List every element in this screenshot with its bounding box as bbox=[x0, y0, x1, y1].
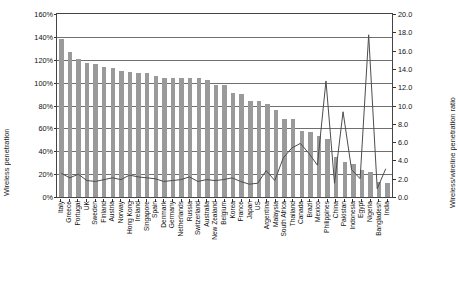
y-tick-label-right: 16.0 bbox=[398, 46, 412, 55]
x-tick-label: Argentina bbox=[263, 201, 270, 229]
x-tick-label: Malaysia bbox=[272, 201, 279, 227]
x-tick-label: Germany bbox=[168, 201, 175, 228]
x-tick-label-wrapper: Brazil bbox=[305, 201, 314, 279]
x-tick-label: Sweden bbox=[91, 201, 98, 225]
x-tick-label-wrapper: Switzerland bbox=[193, 201, 202, 279]
x-tick-label-wrapper: Thailand bbox=[288, 201, 297, 279]
y-tick-label-right: 10.0 bbox=[398, 101, 412, 110]
x-tick-label-wrapper: Belgium bbox=[219, 201, 228, 279]
x-tick-label: Ireland bbox=[134, 201, 141, 221]
x-tick-label: India bbox=[383, 201, 390, 215]
x-tick-label-wrapper: Finland bbox=[99, 201, 108, 279]
x-tick-label-wrapper: Italy bbox=[56, 201, 65, 279]
x-tick-label-wrapper: US bbox=[254, 201, 263, 279]
y-tick-mark-right bbox=[393, 51, 396, 52]
x-tick-label: US bbox=[254, 201, 261, 210]
x-tick-label-wrapper: Egypt bbox=[357, 201, 366, 279]
y-tick-label-right: 18.0 bbox=[398, 28, 412, 37]
x-tick-label-wrapper: Canada bbox=[297, 201, 306, 279]
x-tick-label: Pakistan bbox=[340, 201, 347, 226]
x-tick-label: Bangladesh bbox=[375, 201, 382, 236]
y-tick-label-right: 8.0 bbox=[398, 119, 408, 128]
y-axis-label-left: Wireless penetration bbox=[2, 46, 11, 196]
y-tick-label-right: 6.0 bbox=[398, 138, 408, 147]
y-tick-label-left: 60% bbox=[38, 124, 53, 133]
x-tick-label: Portugal bbox=[74, 201, 81, 226]
x-tick-label-wrapper: Hong Kong bbox=[125, 201, 134, 279]
x-tick-label: Spain bbox=[151, 201, 158, 218]
y-axis-ticks-left: 0%20%40%60%80%100%120%140%160% bbox=[14, 13, 53, 198]
x-tick-label-wrapper: Korea bbox=[228, 201, 237, 279]
x-tick-label: Brazil bbox=[306, 201, 313, 218]
x-tick-label-wrapper: Austria bbox=[108, 201, 117, 279]
x-tick-label: Netherlands bbox=[177, 201, 184, 237]
x-tick-label-wrapper: China bbox=[331, 201, 340, 279]
x-tick-label-wrapper: Sweden bbox=[90, 201, 99, 279]
y-tick-label-right: 0.0 bbox=[398, 193, 408, 202]
x-tick-label-wrapper: Bangladesh bbox=[374, 201, 383, 279]
x-tick-label: South Africa bbox=[280, 201, 287, 237]
x-tick-label-wrapper: Argentina bbox=[262, 201, 271, 279]
x-tick-label: Australia bbox=[203, 201, 210, 227]
x-tick-label-wrapper: Singapore bbox=[142, 201, 151, 279]
chart-container: Wireless penetration Wireless/wireline p… bbox=[0, 0, 458, 281]
x-tick-label-wrapper: Netherlands bbox=[176, 201, 185, 279]
y-tick-mark-right bbox=[393, 32, 396, 33]
y-tick-mark-right bbox=[393, 197, 396, 198]
y-tick-label-left: 20% bbox=[38, 170, 53, 179]
x-tick-label-wrapper: Denmark bbox=[159, 201, 168, 279]
y-tick-label-right: 4.0 bbox=[398, 156, 408, 165]
x-tick-label: Mexico bbox=[314, 201, 321, 222]
x-tick-label: France bbox=[237, 201, 244, 222]
y-tick-label-left: 100% bbox=[34, 78, 53, 87]
x-tick-label: Thailand bbox=[289, 201, 296, 226]
x-tick-label: Denmark bbox=[160, 201, 167, 228]
x-tick-label: Finland bbox=[100, 201, 107, 223]
line-series bbox=[57, 14, 392, 197]
plot-area bbox=[56, 13, 393, 198]
x-tick-label-wrapper: Portugal bbox=[73, 201, 82, 279]
y-tick-mark-right bbox=[393, 142, 396, 143]
x-tick-label: Italy bbox=[57, 201, 64, 213]
x-tick-label: Hong Kong bbox=[126, 201, 133, 234]
y-tick-label-right: 12.0 bbox=[398, 83, 412, 92]
x-tick-label: New Zealand bbox=[211, 201, 218, 240]
x-tick-label: China bbox=[332, 201, 339, 218]
x-tick-label: Philippines bbox=[323, 201, 330, 233]
y-tick-mark-right bbox=[393, 179, 396, 180]
y-tick-label-right: 2.0 bbox=[398, 174, 408, 183]
y-tick-mark-right bbox=[393, 124, 396, 125]
x-tick-label-wrapper: Malaysia bbox=[271, 201, 280, 279]
x-tick-label-wrapper: Philippines bbox=[322, 201, 331, 279]
x-tick-label: Egypt bbox=[357, 201, 364, 218]
x-tick-label-wrapper: Japan bbox=[245, 201, 254, 279]
x-tick-label-wrapper: South Africa bbox=[279, 201, 288, 279]
x-tick-label-wrapper: Mexico bbox=[314, 201, 323, 279]
y-tick-label-right: 20.0 bbox=[398, 10, 412, 19]
x-tick-label-wrapper: Pakistan bbox=[339, 201, 348, 279]
x-tick-label: Nigeria bbox=[366, 201, 373, 222]
x-tick-label-wrapper: Norway bbox=[116, 201, 125, 279]
x-tick-label: Canada bbox=[297, 201, 304, 224]
y-tick-label-left: 80% bbox=[38, 101, 53, 110]
x-tick-label: Belgium bbox=[220, 201, 227, 225]
x-tick-label: Singapore bbox=[143, 201, 150, 231]
x-tick-label: Russia bbox=[186, 201, 193, 221]
x-tick-label-wrapper: France bbox=[236, 201, 245, 279]
y-tick-label-left: 120% bbox=[34, 55, 53, 64]
y-tick-mark-right bbox=[393, 69, 396, 70]
x-tick-label: UK bbox=[83, 201, 90, 210]
y-axis-label-right: Wireless/wireline penetration ratio bbox=[448, 38, 457, 208]
x-tick-label: Japan bbox=[246, 201, 253, 219]
x-tick-label-wrapper: Germany bbox=[168, 201, 177, 279]
x-tick-label-wrapper: Ireland bbox=[133, 201, 142, 279]
x-tick-label: Switzerland bbox=[194, 201, 201, 235]
y-tick-mark-right bbox=[393, 106, 396, 107]
y-tick-label-left: 140% bbox=[34, 32, 53, 41]
x-tick-label-wrapper: Spain bbox=[150, 201, 159, 279]
x-tick-label-wrapper: Indonesia bbox=[348, 201, 357, 279]
x-tick-label: Korea bbox=[229, 201, 236, 219]
x-tick-label-wrapper: Australia bbox=[202, 201, 211, 279]
x-tick-label: Norway bbox=[117, 201, 124, 223]
y-tick-mark-right bbox=[393, 87, 396, 88]
